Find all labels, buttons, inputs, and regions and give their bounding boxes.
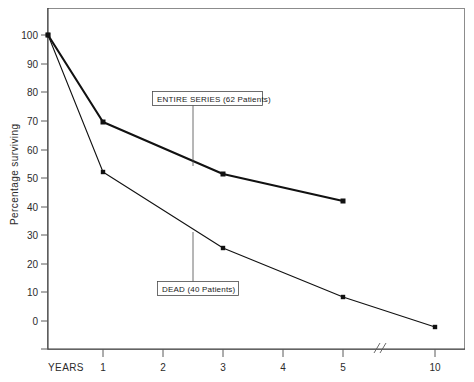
- y-tick-label: 10: [27, 287, 39, 298]
- y-tick-label: 60: [27, 145, 39, 156]
- x-tick-label: 1: [100, 362, 106, 373]
- x-tick-label: 10: [429, 362, 441, 373]
- x-tick-label: 5: [340, 362, 346, 373]
- y-tick-label: 40: [27, 202, 39, 213]
- x-tick-label: 4: [280, 362, 286, 373]
- y-tick-label: 0: [32, 316, 38, 327]
- y-tick-label: 100: [21, 30, 38, 41]
- x-tick-label: 3: [220, 362, 226, 373]
- y-tick-label: 50: [27, 173, 39, 184]
- y-tick-label: 90: [27, 59, 39, 70]
- figure-background: [0, 0, 474, 382]
- x-axis-title: YEARS: [48, 362, 84, 373]
- annotation-dead: DEAD (40 Patients): [158, 282, 239, 296]
- annotation-dead-label: DEAD (40 Patients): [162, 285, 236, 294]
- y-axis-title: Percentage surviving: [9, 124, 20, 225]
- annotation-entire-series: ENTIRE SERIES (62 Patients): [153, 92, 272, 106]
- y-tick-label: 80: [27, 87, 39, 98]
- y-tick-label: 70: [27, 116, 39, 127]
- x-tick-label: 2: [160, 362, 166, 373]
- y-tick-label: 30: [27, 230, 39, 241]
- y-tick-label: 20: [27, 259, 39, 270]
- survival-curve-figure: 100 90 80 70 60 50 40 30 20 10 0 Percent…: [0, 0, 474, 382]
- annotation-entire-series-label: ENTIRE SERIES (62 Patients): [157, 95, 271, 104]
